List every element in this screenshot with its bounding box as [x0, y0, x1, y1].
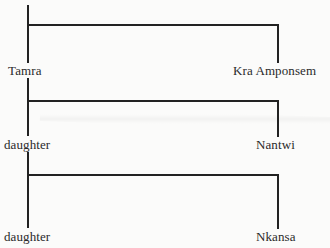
marriage-line-1	[27, 24, 279, 26]
descent-line-3-right	[277, 174, 279, 229]
descent-line-2-right	[277, 100, 279, 137]
person-nkansa: Nkansa	[256, 230, 296, 244]
person-tamra: Tamra	[8, 64, 42, 78]
marriage-line-3	[27, 174, 279, 176]
descent-line-3-left	[27, 152, 29, 228]
person-kra-amponsem: Kra Amponsem	[233, 64, 316, 78]
page-shading	[40, 107, 330, 131]
person-daughter-1: daughter	[4, 138, 50, 152]
descent-line-1-left	[27, 5, 29, 63]
person-daughter-2: daughter	[4, 230, 50, 244]
person-nantwi: Nantwi	[256, 138, 295, 152]
marriage-line-2	[27, 100, 279, 102]
descent-line-2-left	[27, 78, 29, 136]
descent-line-1-right	[277, 24, 279, 63]
